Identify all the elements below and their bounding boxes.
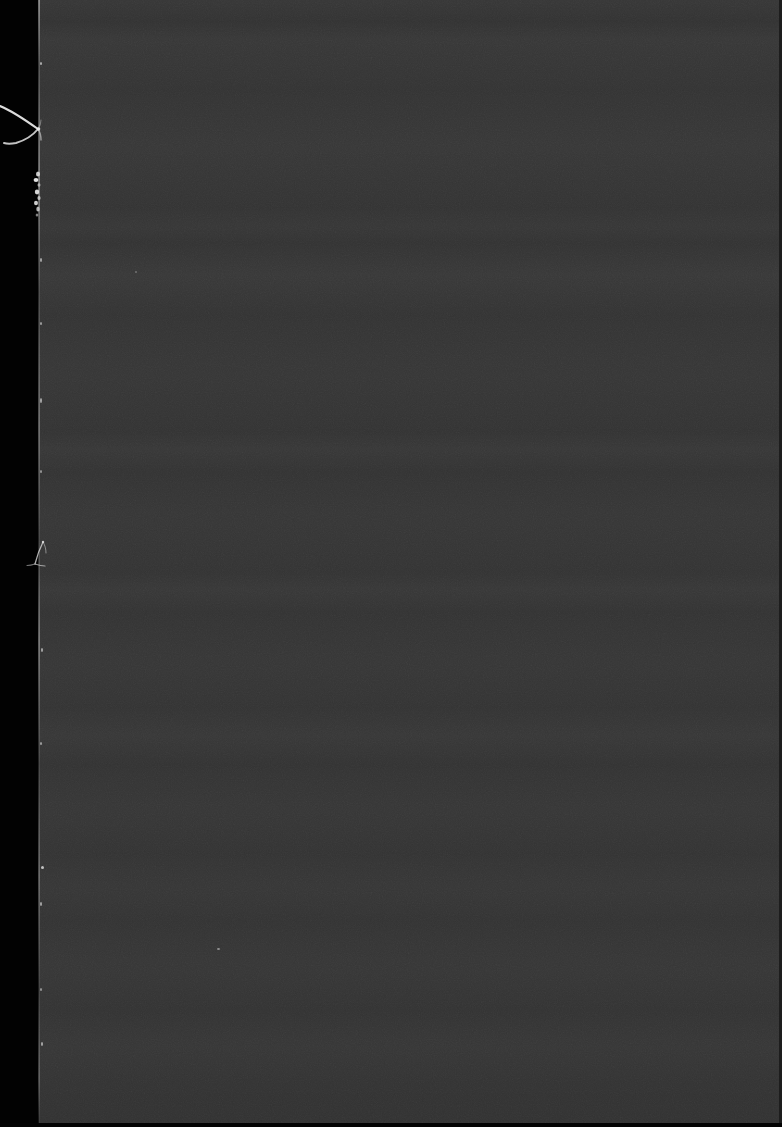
bottom-border-strip <box>0 1123 782 1127</box>
main-field-region <box>39 0 779 1123</box>
scan-frame <box>0 0 782 1127</box>
field-banding-overlay <box>39 0 779 1123</box>
left-margin-region <box>0 0 39 1127</box>
boundary-scan-line <box>38 0 40 1123</box>
film-grain-texture <box>39 0 779 1123</box>
